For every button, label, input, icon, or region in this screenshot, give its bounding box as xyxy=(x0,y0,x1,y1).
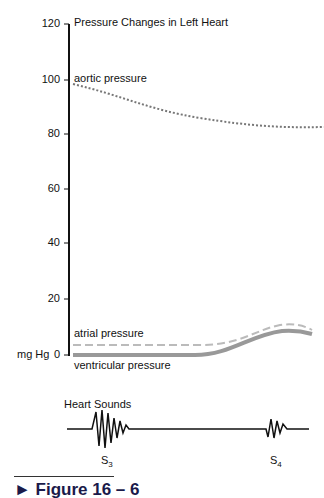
figure-rule xyxy=(14,476,114,477)
s3-label: S3 xyxy=(101,454,113,469)
y-tick: 0 xyxy=(20,348,60,360)
heart-sounds-label: Heart Sounds xyxy=(64,398,131,410)
y-tick: 80 xyxy=(20,127,60,139)
y-tick: 100 xyxy=(20,73,60,85)
figure-caption: ► Figure 16 – 6 xyxy=(14,480,139,498)
atrial-label: atrial pressure xyxy=(74,327,144,339)
aortic-pressure-line xyxy=(73,84,324,127)
chart-title: Pressure Changes in Left Heart xyxy=(74,16,228,28)
aortic-label: aortic pressure xyxy=(74,72,147,84)
ventricular-label: ventricular pressure xyxy=(74,359,171,371)
s4-label: S4 xyxy=(270,454,282,469)
y-tick: 20 xyxy=(20,292,60,304)
heart-sound-trace xyxy=(67,410,309,448)
y-tick: 40 xyxy=(20,236,60,248)
y-tick: 120 xyxy=(20,17,60,29)
y-tick: 60 xyxy=(20,182,60,194)
